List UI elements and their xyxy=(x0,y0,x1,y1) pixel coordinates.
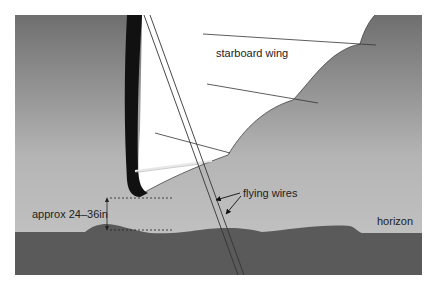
label-height: approx 24–36in xyxy=(32,208,108,220)
label-horizon: horizon xyxy=(377,215,413,227)
diagram-canvas: starboard wing flying wires approx 24–36… xyxy=(0,0,432,283)
label-flying-wires: flying wires xyxy=(243,187,298,199)
label-starboard-wing: starboard wing xyxy=(216,47,288,59)
